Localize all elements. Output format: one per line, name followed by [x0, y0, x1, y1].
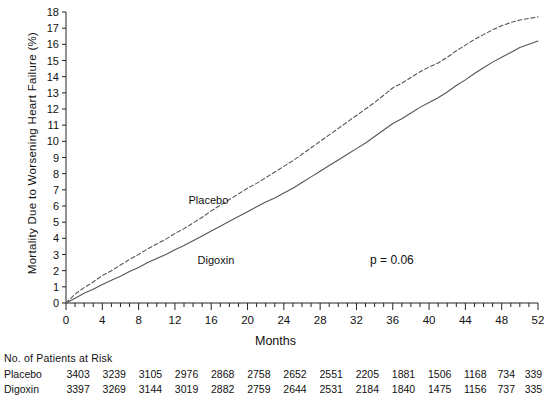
- risk-cell: 3397: [60, 382, 96, 397]
- risk-cell: 2531: [313, 382, 349, 397]
- at-risk-caption: No. of Patients at Risk: [4, 352, 551, 364]
- risk-cell: 737: [493, 382, 520, 397]
- risk-cell: 2184: [349, 382, 385, 397]
- table-row: Digoxin339732693144301928822759264425312…: [4, 382, 547, 397]
- risk-cell: 335: [520, 382, 547, 397]
- risk-cell: 3105: [132, 367, 168, 382]
- risk-cell: 2882: [205, 382, 241, 397]
- risk-row-label: Digoxin: [4, 382, 60, 397]
- x-axis-title: Months: [0, 334, 551, 348]
- y-tick-label: 8: [37, 168, 59, 179]
- y-tick-label: 9: [37, 152, 59, 163]
- curve-label-placebo: Placebo: [189, 194, 229, 206]
- curve-placebo: [66, 17, 538, 303]
- risk-cell: 2759: [241, 382, 277, 397]
- risk-cell: 734: [493, 367, 520, 382]
- kaplan-meier-figure: Mortality Due to Worsening Heart Failure…: [0, 0, 551, 405]
- y-tick-label: 5: [37, 217, 59, 228]
- risk-cell: 2551: [313, 367, 349, 382]
- x-tick-label: 52: [518, 314, 551, 326]
- x-tick-label: 24: [264, 314, 304, 326]
- risk-cell: 1156: [458, 382, 493, 397]
- at-risk-table: No. of Patients at Risk Placebo340332393…: [4, 352, 551, 397]
- x-tick-label: 48: [482, 314, 522, 326]
- x-tick-label: 16: [191, 314, 231, 326]
- y-tick-label: 16: [37, 39, 59, 50]
- risk-cell: 2976: [168, 367, 204, 382]
- x-tick-label: 20: [228, 314, 268, 326]
- x-tick-label: 44: [445, 314, 485, 326]
- y-tick-label: 11: [37, 120, 59, 131]
- at-risk-grid: Placebo340332393105297628682758265225512…: [4, 367, 547, 397]
- x-tick-label: 36: [373, 314, 413, 326]
- table-row: Placebo340332393105297628682758265225512…: [4, 367, 547, 382]
- risk-cell: 3403: [60, 367, 96, 382]
- x-tick-label: 4: [82, 314, 122, 326]
- risk-cell: 1881: [385, 367, 421, 382]
- y-tick-label: 13: [37, 87, 59, 98]
- x-tick-label: 8: [119, 314, 159, 326]
- y-tick-label: 12: [37, 104, 59, 115]
- risk-row-label: Placebo: [4, 367, 60, 382]
- y-tick-label: 7: [37, 184, 59, 195]
- y-tick-label: 10: [37, 136, 59, 147]
- risk-cell: 2868: [205, 367, 241, 382]
- risk-cell: 2652: [277, 367, 313, 382]
- risk-cell: 1506: [422, 367, 458, 382]
- y-tick-label: 1: [37, 281, 59, 292]
- p-value-annotation: p = 0.06: [370, 253, 414, 267]
- risk-cell: 1168: [458, 367, 493, 382]
- x-tick-label: 32: [336, 314, 376, 326]
- y-tick-label: 2: [37, 265, 59, 276]
- curves-svg: [66, 12, 538, 303]
- risk-cell: 339: [520, 367, 547, 382]
- risk-cell: 3019: [168, 382, 204, 397]
- y-tick-label: 14: [37, 71, 59, 82]
- risk-cell: 1475: [422, 382, 458, 397]
- risk-cell: 2205: [349, 367, 385, 382]
- plot-area: [66, 12, 538, 303]
- risk-cell: 2644: [277, 382, 313, 397]
- y-tick-label: 0: [37, 298, 59, 309]
- curve-digoxin: [66, 41, 538, 303]
- risk-cell: 2758: [241, 367, 277, 382]
- x-tick-label: 40: [409, 314, 449, 326]
- y-tick-label: 18: [37, 7, 59, 18]
- risk-cell: 3144: [132, 382, 168, 397]
- x-tick-label: 28: [300, 314, 340, 326]
- risk-cell: 3269: [96, 382, 132, 397]
- y-tick-label: 17: [37, 23, 59, 34]
- risk-cell: 1840: [385, 382, 421, 397]
- x-tick-label: 12: [155, 314, 195, 326]
- y-tick-label: 15: [37, 55, 59, 66]
- risk-cell: 3239: [96, 367, 132, 382]
- curve-label-digoxin: Digoxin: [198, 254, 235, 266]
- y-tick-label: 3: [37, 249, 59, 260]
- y-tick-label: 6: [37, 201, 59, 212]
- x-tick-label: 0: [46, 314, 86, 326]
- y-tick-label: 4: [37, 233, 59, 244]
